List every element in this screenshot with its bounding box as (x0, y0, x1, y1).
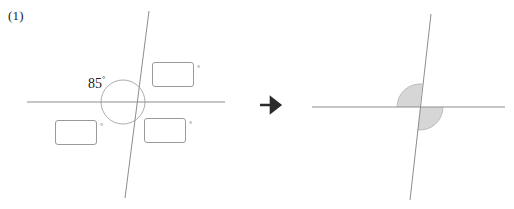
sector-upper-left-trim (420, 14, 470, 107)
degree-symbol-upper-right: ° (197, 65, 200, 73)
shaded-sector-lower-right (417, 107, 442, 130)
given-angle-label: 85° (88, 76, 105, 92)
given-angle-value: 85 (88, 76, 102, 91)
answer-box-upper-right[interactable] (152, 62, 194, 87)
degree-symbol-lower-right: ° (189, 121, 192, 129)
given-angle-degree-symbol: ° (102, 75, 105, 84)
answer-box-lower-left[interactable] (55, 120, 97, 145)
answer-box-lower-right[interactable] (144, 118, 186, 143)
right-figure-svg (290, 0, 514, 209)
left-figure-panel: 85° ° ° ° (0, 0, 250, 209)
slanted-line (125, 11, 149, 198)
worksheet-canvas: (1) 85° ° ° ° (0, 0, 514, 209)
shaded-sector-upper-left (397, 84, 422, 107)
right-arrow-icon (258, 92, 286, 118)
left-figure-svg (0, 0, 250, 209)
degree-symbol-lower-left: ° (100, 123, 103, 131)
sector-lower-right-trim (370, 107, 420, 200)
right-figure-panel (290, 0, 514, 209)
